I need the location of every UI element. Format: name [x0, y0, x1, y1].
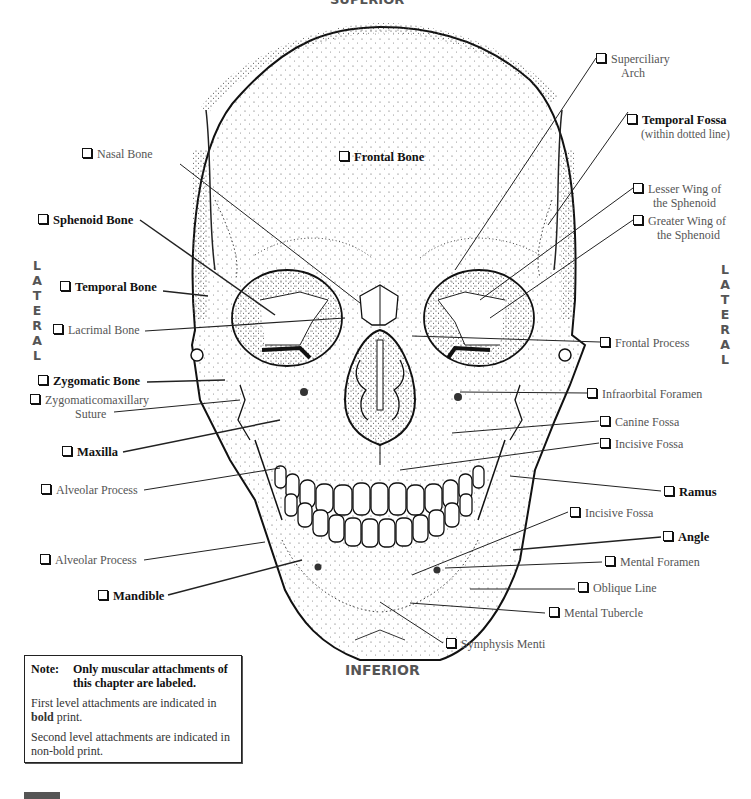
checkbox-icon[interactable]: [339, 151, 349, 161]
label-alveolar-process-lower[interactable]: Alveolar Process: [40, 553, 137, 567]
label-frontal-process[interactable]: Frontal Process: [600, 336, 689, 350]
label-temporal-fossa[interactable]: Temporal Fossa(within dotted line): [627, 113, 730, 141]
note-key: Note:: [31, 662, 73, 690]
label-lacrimal-bone[interactable]: Lacrimal Bone: [53, 323, 140, 337]
label-zygomaticomaxillary-suture[interactable]: ZygomaticomaxillarySuture: [30, 393, 149, 421]
orientation-superior: SUPERIOR: [330, 0, 404, 7]
orientation-inferior: INFERIOR: [345, 662, 420, 678]
checkbox-icon[interactable]: [60, 281, 70, 291]
checkbox-icon[interactable]: [600, 416, 610, 426]
label-zygomatic-bone[interactable]: Zygomatic Bone: [38, 374, 140, 388]
checkbox-icon[interactable]: [596, 53, 606, 63]
label-canine-fossa[interactable]: Canine Fossa: [600, 415, 679, 429]
label-temporal-bone[interactable]: Temporal Bone: [60, 280, 157, 294]
label-infraorbital-foramen[interactable]: Infraorbital Foramen: [587, 387, 702, 401]
checkbox-icon[interactable]: [98, 590, 108, 600]
checkbox-icon[interactable]: [664, 486, 674, 496]
checkbox-icon[interactable]: [633, 215, 643, 225]
checkbox-icon[interactable]: [40, 554, 50, 564]
label-nasal-bone[interactable]: Nasal Bone: [82, 147, 153, 161]
checkbox-icon[interactable]: [38, 375, 48, 385]
label-maxilla[interactable]: Maxilla: [62, 445, 118, 459]
label-symphysis-menti[interactable]: Symphysis Menti: [446, 637, 545, 651]
checkbox-icon[interactable]: [600, 337, 610, 347]
checkbox-icon[interactable]: [549, 607, 559, 617]
checkbox-icon[interactable]: [605, 556, 615, 566]
note-first-level: First level attachments are indicated in…: [31, 696, 235, 724]
checkbox-icon[interactable]: [30, 394, 40, 404]
label-mental-tubercle[interactable]: Mental Tubercle: [549, 606, 643, 620]
checkbox-icon[interactable]: [578, 582, 588, 592]
label-mental-foramen[interactable]: Mental Foramen: [605, 555, 700, 569]
checkbox-icon[interactable]: [570, 507, 580, 517]
label-angle[interactable]: Angle: [663, 530, 709, 544]
label-sphenoid-bone[interactable]: Sphenoid Bone: [38, 213, 133, 227]
note-heading: Only muscular attachments of this chapte…: [73, 662, 235, 690]
checkbox-icon[interactable]: [446, 638, 456, 648]
checkbox-icon[interactable]: [38, 214, 48, 224]
label-incisive-fossa-upper[interactable]: Incisive Fossa: [600, 437, 683, 451]
label-greater-wing-sphenoid[interactable]: Greater Wing ofthe Sphenoid: [633, 214, 726, 242]
note-box: Note:Only muscular attachments of this c…: [24, 655, 242, 763]
checkbox-icon[interactable]: [41, 484, 51, 494]
label-ramus[interactable]: Ramus: [664, 485, 717, 499]
checkbox-icon[interactable]: [627, 114, 637, 124]
orientation-lateral-left: LATERAL: [30, 258, 44, 363]
note-second-level: Second level attachments are indicated i…: [31, 730, 235, 758]
checkbox-icon[interactable]: [663, 531, 673, 541]
label-alveolar-process-upper[interactable]: Alveolar Process: [41, 483, 138, 497]
label-mandible[interactable]: Mandible: [98, 589, 164, 603]
checkbox-icon[interactable]: [53, 324, 63, 334]
label-incisive-fossa-lower[interactable]: Incisive Fossa: [570, 506, 653, 520]
checkbox-icon[interactable]: [600, 438, 610, 448]
label-oblique-line[interactable]: Oblique Line: [578, 581, 657, 595]
checkbox-icon[interactable]: [62, 446, 72, 456]
checkbox-icon[interactable]: [633, 183, 643, 193]
orientation-lateral-right: LATERAL: [718, 262, 732, 367]
page-tab-marker: [24, 792, 60, 799]
label-superciliary-arch[interactable]: SuperciliaryArch: [596, 52, 670, 80]
checkbox-icon[interactable]: [587, 388, 597, 398]
checkbox-icon[interactable]: [82, 148, 92, 158]
label-frontal-bone[interactable]: Frontal Bone: [339, 150, 424, 164]
label-lesser-wing-sphenoid[interactable]: Lesser Wing ofthe Sphenoid: [633, 182, 721, 210]
